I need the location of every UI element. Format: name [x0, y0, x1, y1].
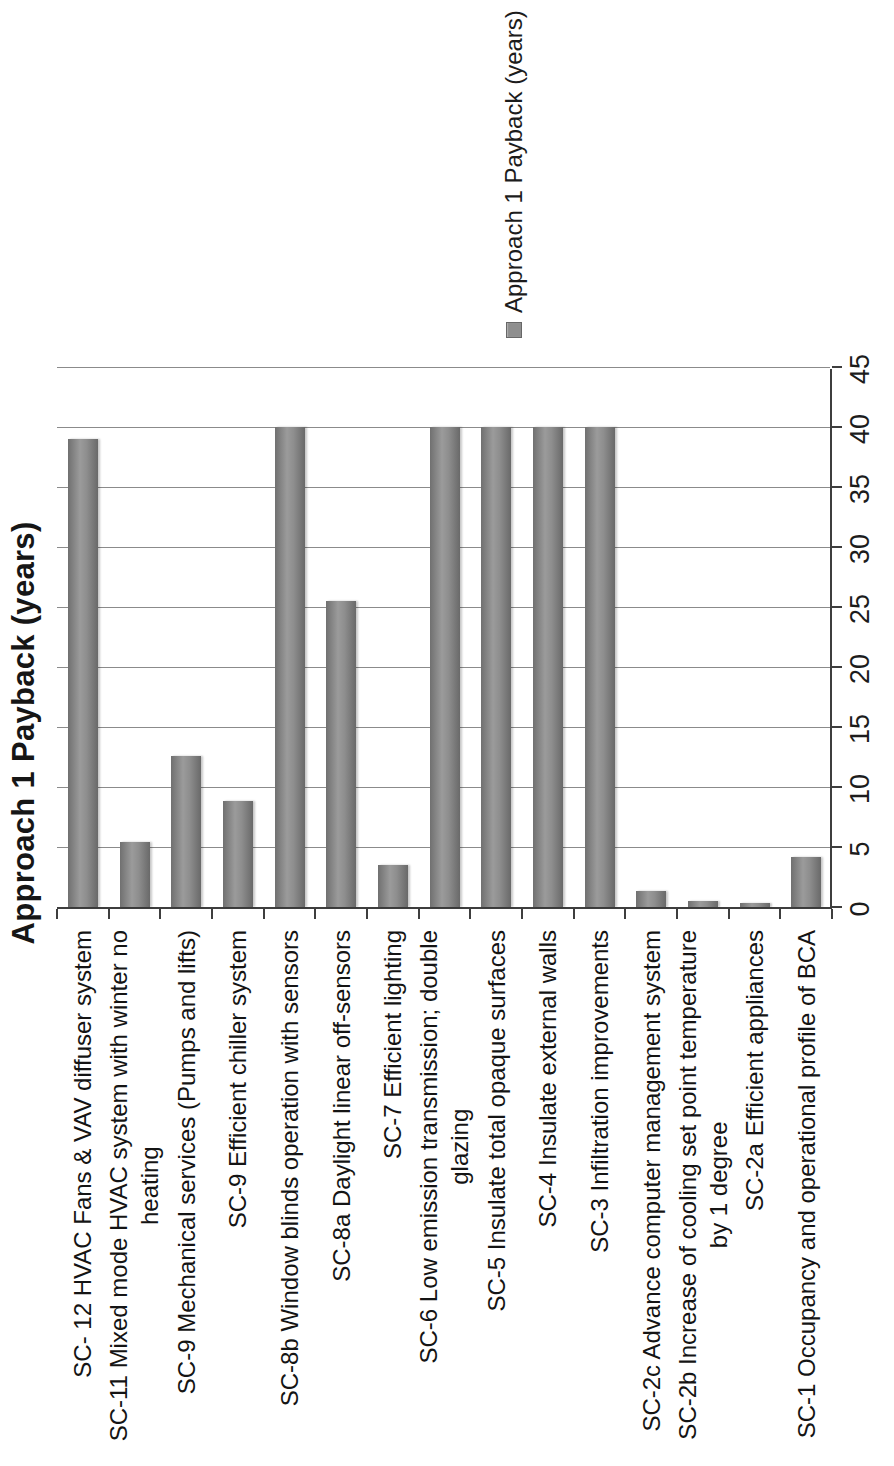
category-row: SC-8a Daylight linear off-sensors [315, 930, 367, 1466]
category-label: SC-5 Insulate total opaque surfaces [481, 930, 512, 1312]
value-tick [832, 786, 842, 788]
value-tick-label: 15 [845, 714, 876, 744]
category-label: SC-11 Mixed mode HVAC system with winter… [103, 930, 165, 1441]
value-tick [832, 366, 842, 368]
bar [378, 865, 408, 907]
category-label: SC-2c Advance computer management system [636, 930, 667, 1432]
category-label: SC-2a Efficient appliances [739, 930, 770, 1211]
value-tick-label: 20 [845, 654, 876, 684]
category-tick [676, 909, 678, 919]
category-label: SC-8b Window blinds operation with senso… [274, 930, 305, 1406]
bar [275, 427, 305, 907]
value-tick-label: 25 [845, 594, 876, 624]
rotated-chart: Approach 1 Payback (years) SC- 12 HVAC F… [0, 0, 894, 1466]
bar [223, 801, 253, 907]
category-tick [159, 909, 161, 919]
value-tick [832, 486, 842, 488]
category-tick [108, 909, 110, 919]
category-label: SC-6 Low emission transmission; doublegl… [413, 930, 475, 1364]
category-row: SC-11 Mixed mode HVAC system with winter… [109, 930, 161, 1466]
category-row: SC-9 Mechanical services (Pumps and lift… [160, 930, 212, 1466]
category-tick [521, 909, 523, 919]
category-label: SC-4 Insulate external walls [532, 930, 563, 1227]
category-label: SC-9 Mechanical services (Pumps and lift… [171, 930, 202, 1394]
category-row: SC-2c Advance computer management system [625, 930, 677, 1466]
value-tick-label: 30 [845, 534, 876, 564]
category-axis-labels: SC- 12 HVAC Fans & VAV diffuser systemSC… [57, 920, 832, 1466]
bar [533, 427, 563, 907]
category-tick [366, 909, 368, 919]
value-tick [832, 426, 842, 428]
gridline [57, 367, 830, 368]
category-row: SC-9 Efficient chiller system [212, 930, 264, 1466]
category-tick [573, 909, 575, 919]
category-tick [779, 909, 781, 919]
category-label: SC-7 Efficient lighting [377, 930, 408, 1159]
value-tick [832, 726, 842, 728]
bar [120, 842, 150, 907]
bar [68, 439, 98, 907]
category-tick [624, 909, 626, 919]
value-tick-label: 0 [845, 901, 876, 916]
category-row: SC-2b Increase of cooling set point temp… [677, 930, 729, 1466]
value-tick [832, 906, 842, 908]
category-tick [469, 909, 471, 919]
category-tick [418, 909, 420, 919]
category-row: SC-2a Efficient appliances [729, 930, 781, 1466]
category-row: SC-1 Occupancy and operational profile o… [780, 930, 832, 1466]
category-label: SC- 12 HVAC Fans & VAV diffuser system [67, 930, 98, 1378]
bar [171, 756, 201, 907]
category-row: SC-5 Insulate total opaque surfaces [470, 930, 522, 1466]
bar [430, 427, 460, 907]
category-row: SC-3 Infiltration improvements [574, 930, 626, 1466]
category-label: SC-1 Occupancy and operational profile o… [791, 930, 822, 1438]
value-tick-label: 35 [845, 474, 876, 504]
category-row: SC-7 Efficient lighting [367, 930, 419, 1466]
category-label: SC-8a Daylight linear off-sensors [326, 930, 357, 1282]
category-tick [728, 909, 730, 919]
bar [636, 891, 666, 907]
bar [585, 427, 615, 907]
category-tick [211, 909, 213, 919]
plot-area [57, 369, 832, 909]
category-row: SC-4 Insulate external walls [522, 930, 574, 1466]
category-tick [314, 909, 316, 919]
value-tick-label: 10 [845, 774, 876, 804]
bar [481, 427, 511, 907]
category-row: SC-6 Low emission transmission; doublegl… [419, 930, 471, 1466]
category-label: SC-3 Infiltration improvements [584, 930, 615, 1253]
category-label: SC-9 Efficient chiller system [222, 930, 253, 1228]
category-row: SC-8b Window blinds operation with senso… [264, 930, 316, 1466]
value-axis-labels: 051015202530354045 [845, 369, 885, 909]
value-tick [832, 606, 842, 608]
chart-title: Approach 1 Payback (years) [6, 0, 42, 1466]
bar [791, 857, 821, 907]
value-tick [832, 666, 842, 668]
value-tick-label: 45 [845, 354, 876, 384]
category-tick [56, 909, 58, 919]
scanned-chart-page: Approach 1 Payback (years) SC- 12 HVAC F… [0, 0, 894, 1466]
legend-swatch-icon [506, 322, 522, 338]
value-tick-label: 5 [845, 841, 876, 856]
value-tick [832, 846, 842, 848]
legend-label: Approach 1 Payback (years) [500, 10, 528, 313]
category-tick [831, 909, 833, 919]
category-row: SC- 12 HVAC Fans & VAV diffuser system [57, 930, 109, 1466]
bar [326, 601, 356, 907]
bar [688, 901, 718, 907]
category-label: SC-2b Increase of cooling set point temp… [672, 930, 734, 1440]
category-tick [263, 909, 265, 919]
legend: Approach 1 Payback (years) [500, 10, 528, 338]
value-tick-label: 40 [845, 414, 876, 444]
bar [740, 903, 770, 907]
value-tick [832, 546, 842, 548]
